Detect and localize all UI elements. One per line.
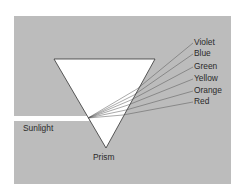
- label-violet: Violet: [194, 38, 215, 46]
- label-green: Green: [194, 62, 217, 70]
- prism-label: Prism: [93, 153, 114, 161]
- prism-triangle: [54, 59, 155, 148]
- sunlight-label: Sunlight: [23, 124, 53, 132]
- label-red: Red: [194, 97, 209, 105]
- label-orange: Orange: [194, 86, 222, 94]
- label-blue: Blue: [194, 49, 211, 57]
- label-yellow: Yellow: [194, 74, 218, 82]
- sunlight-beam: [14, 116, 89, 121]
